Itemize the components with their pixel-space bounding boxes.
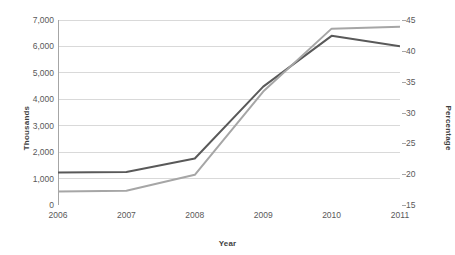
x-axis: 200620072008200920102011: [58, 210, 400, 224]
y-axis-left-tick-label: 0: [49, 200, 54, 210]
x-axis-tick-label: 2007: [117, 210, 136, 220]
y-axis-right-tick-label: 40: [406, 46, 415, 56]
x-axis-tick-label: 2011: [391, 210, 409, 220]
plot-svg: [58, 20, 400, 205]
y-axis-right-tick-mark: [402, 205, 406, 206]
x-axis-tick-label: 2009: [254, 210, 273, 220]
series-line-1: [58, 27, 400, 192]
y-axis-right-tick-mark: [402, 143, 406, 144]
y-axis-right-tick-label: 15: [406, 200, 415, 210]
y-axis-right-tick-label: 25: [406, 138, 415, 148]
y-axis-left: 01,0002,0003,0004,0005,0006,0007,000: [18, 20, 54, 205]
y-axis-left-tick-label: 4,000: [33, 94, 54, 104]
x-axis-title: Year: [0, 239, 455, 248]
y-axis-left-tick-label: 6,000: [33, 41, 54, 51]
y-axis-left-tick-label: 2,000: [33, 147, 54, 157]
y-axis-left-tick-label: 7,000: [33, 15, 54, 25]
y-axis-right-tick-mark: [402, 113, 406, 114]
y-axis-left-tick-label: 5,000: [33, 68, 54, 78]
x-axis-tick-label: 2006: [49, 210, 68, 220]
y-axis-left-tick-label: 1,000: [33, 174, 54, 184]
y-axis-right-tick-label: 20: [406, 169, 415, 179]
y-axis-right-tick-mark: [402, 82, 406, 83]
y-axis-right-tick-mark: [402, 174, 406, 175]
x-axis-tick-label: 2008: [185, 210, 204, 220]
x-axis-tick-label: 2010: [322, 210, 341, 220]
y-axis-right: 15202530354045: [406, 20, 436, 205]
y-axis-right-title: Percentage: [444, 105, 453, 150]
y-axis-right-tick-label: 45: [406, 15, 415, 25]
y-axis-right-tick-mark: [402, 20, 406, 21]
y-axis-right-tick-label: 30: [406, 108, 415, 118]
y-axis-left-tick-label: 3,000: [33, 121, 54, 131]
y-axis-right-tick-mark: [402, 51, 406, 52]
chart-container: Thousands Percentage Year 01,0002,0003,0…: [0, 0, 455, 255]
plot-area: [58, 20, 400, 205]
y-axis-right-tick-label: 35: [406, 77, 415, 87]
